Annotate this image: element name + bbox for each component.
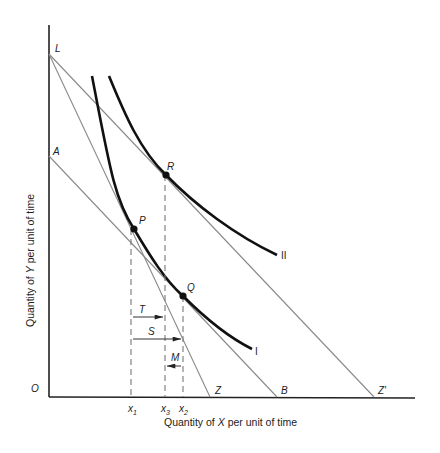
label-M: M — [171, 352, 180, 363]
label-O: O — [31, 383, 39, 394]
x-axis-title: Quantity of X per unit of time — [164, 416, 297, 428]
label-R: R — [167, 161, 174, 172]
point-P — [130, 225, 137, 232]
y-axis-title: Quantity of Y per unit of time — [24, 194, 36, 327]
indifference-curve-I — [92, 76, 252, 349]
label-Z: Z — [214, 385, 222, 396]
label-B: B — [281, 385, 288, 396]
label-A: A — [52, 146, 60, 157]
indifference-curve-diagram: L A O Z B Z' P Q R I II T S M x1 x3 x2 Q… — [0, 0, 440, 453]
budget-line-LZ — [49, 54, 210, 397]
tick-x1: x1 — [127, 403, 137, 416]
budget-line-AB — [49, 156, 277, 397]
label-T: T — [139, 304, 146, 315]
x-axis — [49, 397, 415, 398]
point-R — [162, 171, 169, 178]
label-curve-II: II — [281, 250, 287, 261]
label-L: L — [55, 43, 61, 54]
label-Q: Q — [187, 282, 195, 293]
label-curve-I: I — [255, 346, 258, 357]
tick-x3: x3 — [160, 403, 170, 416]
label-Z-prime: Z' — [377, 385, 387, 396]
tick-x2: x2 — [178, 403, 188, 416]
point-Q — [179, 292, 186, 299]
label-P: P — [139, 215, 146, 226]
label-S: S — [148, 326, 155, 337]
